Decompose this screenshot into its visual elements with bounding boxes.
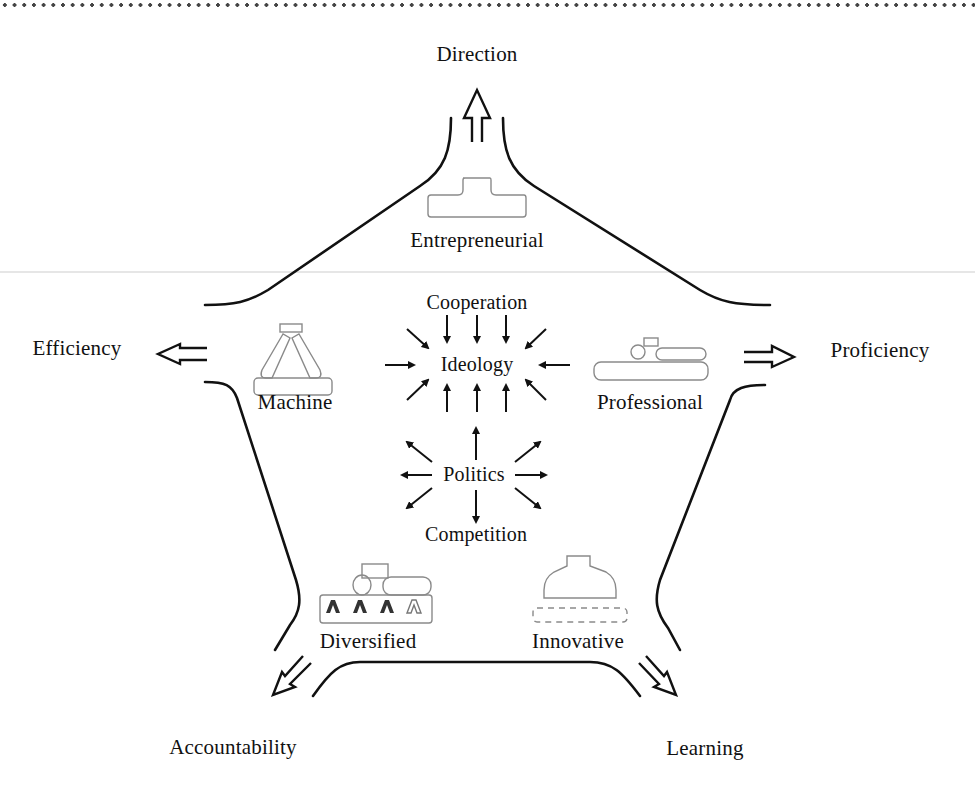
label-ideology: Ideology: [441, 353, 514, 376]
diversified-sub-units: [326, 600, 394, 613]
professional-icon: [594, 338, 708, 380]
arrow-up-icon: [464, 90, 490, 142]
arrow-down-right-icon: [639, 656, 676, 695]
force-proficiency: Proficiency: [831, 338, 930, 363]
force-direction: Direction: [436, 42, 517, 67]
label-cooperation: Cooperation: [426, 291, 527, 314]
entrepreneurial-icon: [428, 178, 526, 217]
config-professional: Professional: [597, 390, 703, 415]
innovative-icon: [533, 556, 627, 622]
diversified-icon: [320, 564, 432, 623]
config-diversified: Diversified: [320, 629, 417, 654]
label-politics: Politics: [443, 463, 505, 486]
config-innovative: Innovative: [532, 629, 624, 654]
force-learning: Learning: [666, 736, 743, 761]
label-competition: Competition: [425, 523, 527, 546]
arrow-right-icon: [744, 346, 794, 367]
edge-left-bottom: [205, 382, 299, 650]
config-machine: Machine: [258, 390, 333, 415]
arrow-left-icon: [158, 344, 207, 364]
edge-right-bottom: [657, 385, 765, 650]
arrow-down-left-icon: [273, 656, 311, 695]
pentagon-diagram: [0, 0, 975, 791]
force-accountability: Accountability: [169, 735, 297, 760]
machine-icon: [254, 324, 332, 395]
edge-bottom: [313, 662, 640, 696]
force-efficiency: Efficiency: [32, 336, 121, 361]
edge-top-right: [503, 118, 770, 305]
config-entrepreneurial: Entrepreneurial: [410, 228, 544, 253]
edge-top-left: [205, 118, 451, 305]
